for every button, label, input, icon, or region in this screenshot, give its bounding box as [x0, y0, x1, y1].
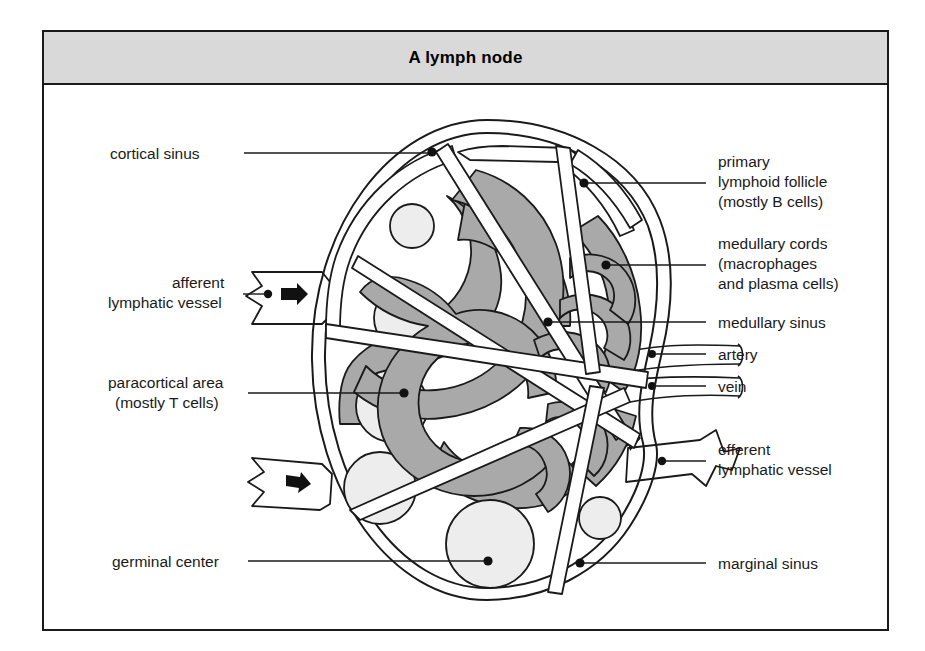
medullary-sinus-dot	[543, 317, 552, 326]
label-primary-line3: (mostly B cells)	[718, 193, 823, 210]
label-medullary-sinus: medullary sinus	[718, 314, 826, 331]
label-afferent-line2: lymphatic vessel	[108, 294, 222, 311]
lymph-node-diagram: cortical sinus afferent lymphatic vessel…	[0, 0, 925, 651]
medullary-cords-dot	[601, 260, 610, 269]
label-cortical-sinus: cortical sinus	[110, 145, 200, 162]
label-artery: artery	[718, 346, 758, 363]
label-efferent-line1: efferent	[718, 441, 771, 458]
label-vein: vein	[718, 378, 746, 395]
label-germinal-center: germinal center	[112, 553, 219, 570]
paracortical-dot	[399, 388, 408, 397]
cortical-sinus-dot	[427, 147, 436, 156]
label-paracortical-line2: (mostly T cells)	[115, 394, 219, 411]
label-paracortical-line1: paracortical area	[108, 374, 224, 391]
afferent-lymphatic-vessel-lower	[248, 458, 332, 510]
marginal-sinus-dot	[575, 558, 584, 567]
germinal-center-dot	[483, 556, 492, 565]
primary-follicle-dot	[579, 178, 588, 187]
label-afferent-line1: afferent	[172, 274, 225, 291]
label-marginal-sinus: marginal sinus	[718, 555, 818, 572]
callout-germinal-center: germinal center	[112, 553, 493, 570]
callout-afferent-lymphatic-vessel: afferent lymphatic vessel	[108, 274, 266, 311]
label-primary-line2: lymphoid follicle	[718, 173, 827, 190]
label-medullary-cords-line2: (macrophages	[718, 255, 817, 272]
callout-cortical-sinus: cortical sinus	[110, 145, 437, 162]
figure-stage: A lymph node	[0, 0, 925, 651]
callout-marginal-sinus: marginal sinus	[575, 555, 818, 572]
germinal-center-3	[446, 500, 534, 588]
label-primary-line1: primary	[718, 153, 770, 170]
efferent-dot	[658, 457, 666, 465]
label-medullary-cords-line3: and plasma cells)	[718, 275, 839, 292]
label-efferent-line2: lymphatic vessel	[718, 461, 832, 478]
germinal-center-2	[390, 204, 434, 248]
callout-vein: vein	[656, 378, 746, 395]
label-medullary-cords-line1: medullary cords	[718, 235, 828, 252]
germinal-center-5	[579, 497, 621, 539]
